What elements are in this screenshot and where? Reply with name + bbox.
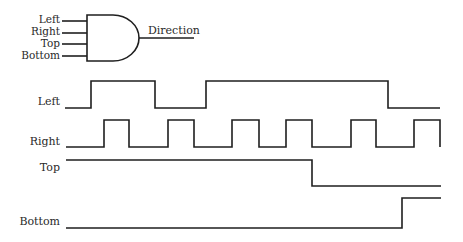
gate-input-label-left: Left	[0, 13, 60, 25]
signal-label-left: Left	[0, 95, 60, 108]
gate-input-label-top: Top	[0, 37, 60, 49]
and-gate-body	[87, 15, 139, 61]
gate-input-label-right: Right	[0, 25, 60, 37]
gate-output-label: Direction	[148, 24, 200, 37]
signal-label-right: Right	[0, 135, 60, 148]
signal-label-top: Top	[0, 161, 60, 174]
diagram-graphics	[0, 0, 463, 242]
and-gate	[62, 15, 194, 61]
waveform-top	[66, 160, 441, 186]
waveform-bottom	[66, 198, 441, 228]
waveform-right	[66, 120, 440, 147]
gate-input-label-bottom: Bottom	[0, 49, 60, 61]
waveform-left	[65, 81, 440, 108]
signal-label-bottom: Bottom	[0, 215, 60, 228]
timing-diagram: Left Right Top Bottom Direction Left Rig…	[0, 0, 463, 242]
